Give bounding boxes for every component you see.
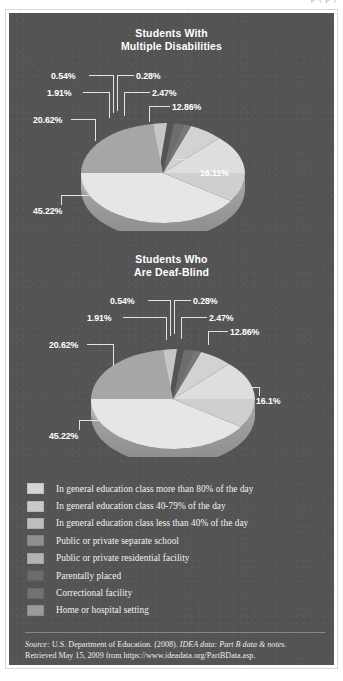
legend-label-separate-school: Public or private separate school <box>56 536 179 546</box>
chart-1-leader-12-86-v <box>149 106 150 122</box>
chart-1-pie-svg <box>71 79 251 231</box>
chart-2-leader-1-91-h <box>123 317 166 318</box>
source-prefix: Source: <box>25 640 50 649</box>
chart-1-leader-2-47-v <box>124 92 125 116</box>
legend-item-correctional-facility[interactable]: Correctional facility <box>27 584 327 601</box>
legend-item-general-ed-less-40[interactable]: In general education class less than 40%… <box>27 515 327 532</box>
chart-2-leader-12-86-h <box>208 331 228 332</box>
legend-item-parentally-placed[interactable]: Parentally placed <box>27 567 327 584</box>
cropped-caption-text: p ( p ) <box>0 0 343 3</box>
legend-item-separate-school[interactable]: Public or private separate school <box>27 532 327 549</box>
chart-1-leader-12-86-h <box>149 106 170 107</box>
legend-label-parentally-placed: Parentally placed <box>56 571 121 581</box>
chart-1-title-line-2: Multiple Disabilities <box>9 40 334 53</box>
legend-label-general-ed-less-40: In general education class less than 40%… <box>56 518 248 528</box>
chart-2-label-1-91: 1.91% <box>87 313 111 323</box>
legend-swatch-residential-facility <box>27 553 44 564</box>
chart-2-leader-0-28-h <box>174 300 191 301</box>
chart-1-label-20-62: 20.62% <box>33 115 62 125</box>
legend-label-general-ed-80: In general education class more than 80%… <box>56 484 253 494</box>
chart-2-leader-16-1-h <box>231 387 259 388</box>
chart-1-label-0-54: 0.54% <box>51 71 75 81</box>
chart-2-leader-12-86-v <box>208 331 209 345</box>
chart-1-leader-0-54-h <box>89 75 113 76</box>
chart-1-leader-45-22-v <box>61 195 62 205</box>
chart-1-label-0-28: 0.28% <box>136 71 160 81</box>
chart-1-leader-16-11-h <box>175 159 201 160</box>
legend-item-general-ed-80[interactable]: In general education class more than 80%… <box>27 480 327 497</box>
legend-swatch-general-ed-80 <box>27 483 44 494</box>
legend-label-residential-facility: Public or private residential facility <box>56 553 190 563</box>
chart-2-label-16-1: 16.1% <box>256 396 280 406</box>
chart-1-label-16-11: 16.11% <box>200 168 229 178</box>
chart-1-leader-1-91-h <box>83 92 109 93</box>
chart-2-leader-0-54-h <box>148 300 170 301</box>
chart-2-leader-45-22-h <box>79 420 111 421</box>
chart-1-leader-20-62-v <box>95 119 96 141</box>
chart-2-label-20-62: 20.62% <box>49 340 78 350</box>
legend-swatch-correctional-facility <box>27 588 44 599</box>
source-line-1-italic: IDEA data: Part B data & notes. <box>180 640 287 649</box>
chart-1-leader-0-28-v <box>117 75 118 111</box>
chart-1-title: Students With Multiple Disabilities <box>9 27 334 52</box>
chart-1-label-2-47: 2.47% <box>152 88 176 98</box>
chart-2-leader-0-28-v <box>174 300 175 334</box>
cropped-top-text-sliver: p ( p ) <box>0 0 343 9</box>
chart-1-pie <box>71 79 251 231</box>
figure-frame: Students With Multiple Disabilities <box>5 9 338 669</box>
chart-2-leader-0-54-v <box>170 300 171 336</box>
legend-item-home-hospital[interactable]: Home or hospital setting <box>27 602 327 619</box>
legend-swatch-home-hospital <box>27 605 44 616</box>
figure-panel: Students With Multiple Disabilities <box>9 13 334 665</box>
legend-swatch-parentally-placed <box>27 570 44 581</box>
chart-1-label-1-91: 1.91% <box>47 88 71 98</box>
chart-2-leader-20-62-v <box>113 344 114 366</box>
chart-1-leader-1-91-v <box>109 92 110 118</box>
legend-item-general-ed-40-79[interactable]: In general education class 40-79% of the… <box>27 497 327 514</box>
chart-1-leader-0-54-v <box>113 75 114 113</box>
chart-2-label-2-47: 2.47% <box>209 313 233 323</box>
legend-swatch-general-ed-less-40 <box>27 518 44 529</box>
source-line-2: Retrieved May 15, 2009 from https://www.… <box>25 651 255 660</box>
legend-swatch-general-ed-40-79 <box>27 501 44 512</box>
source-note: Source: U.S. Department of Education. (2… <box>25 640 331 661</box>
chart-2-leader-16-1-v <box>259 387 260 396</box>
legend: In general education class more than 80%… <box>27 480 327 619</box>
chart-1-leader-0-28-h <box>117 75 134 76</box>
chart-1-leader-45-22-h <box>61 195 91 196</box>
chart-2-label-0-54: 0.54% <box>110 296 134 306</box>
chart-2-title-line-2: Are Deaf-Blind <box>9 266 334 279</box>
legend-label-correctional-facility: Correctional facility <box>56 588 132 598</box>
legend-item-residential-facility[interactable]: Public or private residential facility <box>27 550 327 567</box>
chart-2-label-45-22: 45.22% <box>49 431 78 441</box>
chart-2-leader-20-62-h <box>87 344 113 345</box>
chart-2-title-line-1: Students Who <box>9 253 334 266</box>
chart-1-leader-2-47-h <box>124 92 150 93</box>
legend-label-general-ed-40-79: In general education class 40-79% of the… <box>56 501 226 511</box>
chart-2-label-0-28: 0.28% <box>193 296 217 306</box>
legend-swatch-separate-school <box>27 535 44 546</box>
chart-1-label-12-86: 12.86% <box>172 102 201 112</box>
chart-2-label-12-86: 12.86% <box>230 327 259 337</box>
chart-1-leader-16-11-v <box>201 159 202 168</box>
chart-1-label-45-22: 45.22% <box>33 206 62 216</box>
chart-1-leader-20-62-h <box>71 119 95 120</box>
chart-2-leader-1-91-v <box>166 317 167 340</box>
source-line-1-rest: U.S. Department of Education. (2008). <box>50 640 180 649</box>
source-divider <box>25 632 325 633</box>
chart-2-leader-45-22-v <box>79 420 80 430</box>
chart-1-title-line-1: Students With <box>9 27 334 40</box>
legend-label-home-hospital: Home or hospital setting <box>56 605 149 615</box>
chart-2-leader-2-47-v <box>181 317 182 339</box>
chart-2-title: Students Who Are Deaf-Blind <box>9 253 334 278</box>
